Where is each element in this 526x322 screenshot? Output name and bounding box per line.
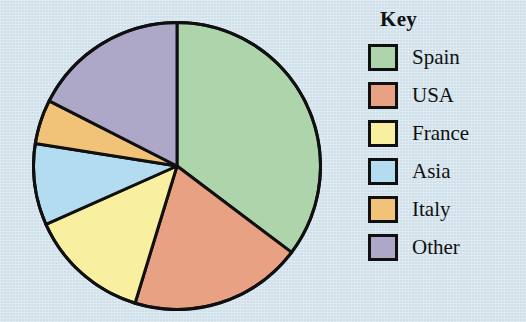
legend-item-italy: Italy (368, 190, 518, 228)
legend-label: Italy (412, 199, 450, 220)
legend-items: SpainUSAFranceAsiaItalyOther (368, 38, 518, 266)
legend-swatch-spain (368, 44, 398, 71)
legend-item-spain: Spain (368, 38, 518, 76)
legend-item-asia: Asia (368, 152, 518, 190)
legend-label: Spain (412, 47, 460, 68)
legend-swatch-italy (368, 196, 398, 223)
pie-chart (32, 21, 322, 311)
legend-title: Key (380, 8, 518, 31)
legend: Key SpainUSAFranceAsiaItalyOther (368, 8, 518, 266)
chart-figure: Key SpainUSAFranceAsiaItalyOther (0, 0, 526, 322)
legend-label: Other (412, 237, 460, 258)
legend-swatch-other (368, 234, 398, 261)
legend-item-usa: USA (368, 76, 518, 114)
legend-item-france: France (368, 114, 518, 152)
legend-swatch-asia (368, 158, 398, 185)
legend-swatch-france (368, 120, 398, 147)
legend-swatch-usa (368, 82, 398, 109)
pie-chart-svg (32, 21, 322, 311)
legend-label: Asia (412, 161, 451, 182)
legend-label: France (412, 123, 469, 144)
legend-item-other: Other (368, 228, 518, 266)
legend-label: USA (412, 85, 454, 106)
